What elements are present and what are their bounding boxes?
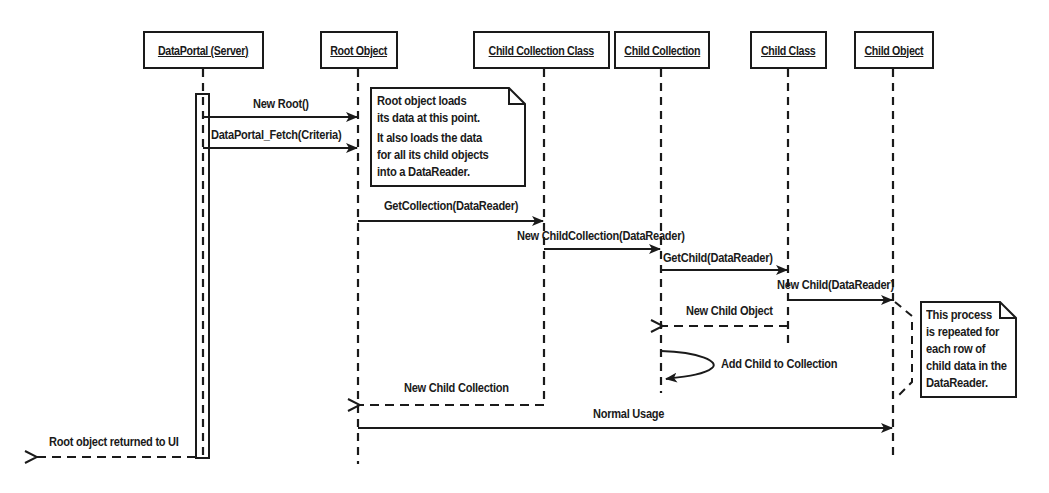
message-add-child-to-collection: Add Child to Collection [721,356,837,371]
note-line: into a DataReader. [377,163,489,180]
object-label: Root Object [331,43,388,58]
object-child-collection-class: Child Collection Class [473,31,610,69]
object-label: Child Object [865,43,924,58]
object-label: Child Collection Class [489,43,594,58]
note-line: is repeated for [926,323,1007,340]
arrow-add-child-self-loop [661,351,714,379]
message-new-child-collection: New Child Collection [404,380,509,395]
note-line: each row of [926,340,1007,357]
note-line: Root object loads [377,92,489,109]
note-line: for all its child objects [377,146,489,163]
object-child-collection: Child Collection [614,31,710,69]
message-normal-usage: Normal Usage [593,406,664,421]
message-get-collection: GetCollection(DataReader) [384,198,518,213]
note-line: It also loads the data [377,129,489,146]
message-new-root: New Root() [253,96,309,111]
sequence-diagram-canvas [0,0,1049,493]
object-dataportal-server: DataPortal (Server) [143,31,264,69]
message-new-childcollection: New ChildCollection(DataReader) [517,228,685,243]
object-label: Child Collection [624,43,700,58]
note-connector [895,302,912,398]
object-root-object: Root Object [320,31,398,69]
message-root-returned-to-ui: Root object returned to UI [49,434,179,449]
object-child-class: Child Class [750,31,827,69]
object-child-object: Child Object [854,31,934,69]
note-line: child data in the [926,357,1007,374]
note-line: its data at this point. [377,109,489,126]
message-new-child-object: New Child Object [686,303,773,318]
note-process-repeated: This process is repeated for each row of… [926,306,1020,391]
message-new-child: New Child(DataReader) [777,277,894,292]
note-line: DataReader. [926,374,1007,391]
message-dataportal-fetch: DataPortal_Fetch(Criteria) [211,127,341,142]
message-get-child: GetChild(DataReader) [663,250,773,265]
object-label: DataPortal (Server) [158,43,248,58]
object-label: Child Class [761,43,815,58]
note-root-loads: Root object loads its data at this point… [377,92,507,180]
note-line: This process [926,306,1007,323]
